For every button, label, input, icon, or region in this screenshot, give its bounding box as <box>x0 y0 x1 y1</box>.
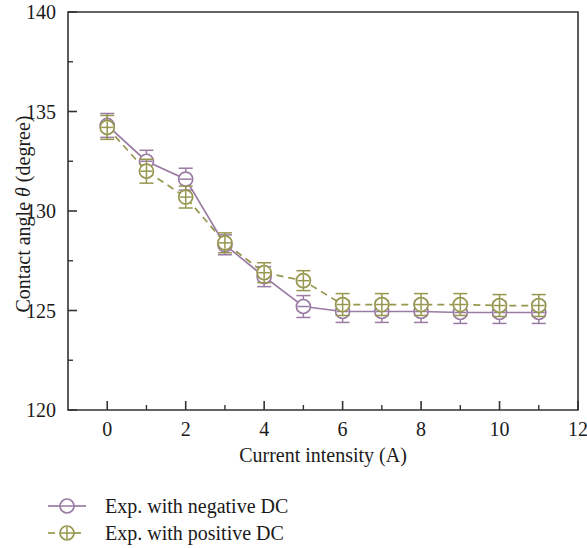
x-tick-label: 6 <box>338 418 348 440</box>
svg-text:Contact angle θ (degree): Contact angle θ (degree) <box>12 116 35 313</box>
legend-item-label: Exp. with negative DC <box>105 495 288 518</box>
data-point-marker <box>179 172 193 186</box>
x-tick-label: 12 <box>568 418 587 440</box>
data-point-marker <box>60 526 74 540</box>
data-point-marker <box>296 300 310 314</box>
y-axis-title-suffix: (degree) <box>12 116 35 188</box>
x-tick-label: 8 <box>416 418 426 440</box>
data-point-marker <box>257 266 271 280</box>
chart-legend: Exp. with negative DCExp. with positive … <box>48 495 288 545</box>
data-point-marker <box>179 190 193 204</box>
data-point-marker <box>100 120 114 134</box>
legend-item-label: Exp. with positive DC <box>105 522 284 545</box>
x-axis-tick-labels: 024681012 <box>102 418 587 440</box>
contact-angle-vs-current-chart: 024681012 120125130135140 Current intens… <box>0 0 587 548</box>
data-point-marker <box>493 299 507 313</box>
x-tick-label: 2 <box>181 418 191 440</box>
chart-figure: 024681012 120125130135140 Current intens… <box>0 0 587 548</box>
y-tick-label: 140 <box>26 1 56 23</box>
y-tick-label: 120 <box>26 399 56 421</box>
data-point-marker <box>414 298 428 312</box>
y-axis-title: Contact angle θ (degree) <box>12 116 35 313</box>
data-series-layer <box>100 113 546 323</box>
legend-item: Exp. with positive DC <box>48 522 284 545</box>
data-point-marker <box>375 298 389 312</box>
series-line <box>107 127 539 305</box>
data-point-marker <box>218 236 232 250</box>
data-point-marker <box>296 274 310 288</box>
series-line <box>107 125 539 312</box>
y-axis-title-prefix: Contact angle <box>12 197 35 313</box>
data-point-marker <box>60 499 74 513</box>
y-axis-title-symbol: θ <box>12 187 34 197</box>
data-series <box>100 115 546 316</box>
legend-item: Exp. with negative DC <box>48 495 288 518</box>
data-point-marker <box>336 298 350 312</box>
plot-frame <box>68 12 578 410</box>
data-point-marker <box>532 299 546 313</box>
y-axis-ticks <box>68 12 77 410</box>
x-tick-label: 4 <box>259 418 269 440</box>
data-point-marker <box>139 164 153 178</box>
data-point-marker <box>453 298 467 312</box>
x-axis-ticks <box>107 401 578 410</box>
x-axis-title: Current intensity (A) <box>239 444 407 467</box>
x-tick-label: 0 <box>102 418 112 440</box>
x-tick-label: 10 <box>490 418 510 440</box>
